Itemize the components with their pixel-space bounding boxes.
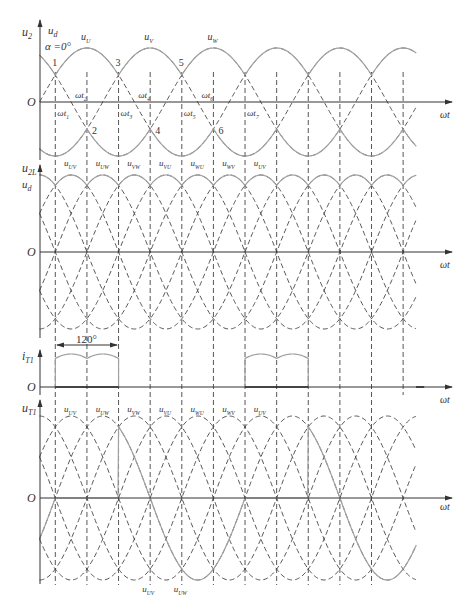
origin-label: O: [27, 245, 36, 259]
y-axis-label: u2: [22, 25, 32, 41]
segment-label-VW: uVW: [127, 404, 141, 416]
phase-label-V: uV: [144, 31, 154, 44]
y-axis-label: iT1: [22, 349, 34, 365]
bottom-label-UV: uUV: [142, 584, 155, 596]
segment-label-WV: uWV: [222, 404, 235, 416]
conduction-angle-label: 120°: [76, 333, 97, 345]
thyristor-voltage-panel: uT1 O ωt uUVuUWuVWuVUuWUuWVuUVuUVuUW: [22, 400, 452, 596]
point-label-2: 2: [92, 125, 97, 136]
firing-angle-label: α =0°: [45, 40, 71, 52]
x-axis-label: ωt: [440, 109, 450, 120]
point-label-4: 4: [155, 125, 160, 136]
origin-label: O: [27, 491, 36, 505]
time-label-2: ωt2: [75, 90, 87, 102]
y-axis-label: u2L: [22, 161, 37, 177]
bottom-label-UW: uUW: [174, 584, 189, 596]
segment-label-VU: uVU: [159, 404, 172, 416]
output-voltage-ud: [40, 175, 417, 185]
segment-label-WU: uWU: [191, 404, 205, 416]
rectifier-waveform-diagram: u2 ud α =0° O ωt uUuVuW 123456 ωt1ωt2ωt3…: [0, 0, 472, 605]
segment-label-WV: uWV: [222, 158, 235, 170]
segment-label-VU: uVU: [159, 158, 172, 170]
phase-label-U: uU: [81, 31, 91, 44]
segment-label-UW: uUW: [96, 404, 111, 416]
segment-label-UV: uUV: [254, 404, 267, 416]
x-axis-label: ωt: [440, 501, 450, 512]
time-label-7: ωt7: [247, 108, 259, 120]
point-label-5: 5: [179, 57, 184, 68]
x-axis-label: ωt: [440, 259, 450, 270]
segment-label-UV: uUV: [254, 158, 267, 170]
point-label-3: 3: [116, 57, 121, 68]
point-label-6: 6: [218, 125, 223, 136]
origin-label: O: [27, 380, 36, 394]
time-label-4: ωt4: [138, 90, 150, 102]
y-axis-label: uT1: [22, 401, 36, 417]
thyristor-voltage: [40, 427, 417, 580]
segment-label-UW: uUW: [96, 158, 111, 170]
origin-label: O: [27, 95, 36, 109]
ud-label: ud: [22, 178, 33, 193]
point-label-1: 1: [52, 57, 57, 68]
time-label-6: ωt6: [201, 90, 213, 102]
phase-label-W: uW: [207, 31, 218, 44]
segment-label-UV: uUV: [64, 404, 77, 416]
segment-label-WU: uWU: [191, 158, 205, 170]
time-label-1: ωt1: [57, 108, 69, 120]
time-label-3: ωt3: [121, 108, 133, 120]
ud-label: ud: [48, 24, 59, 39]
segment-label-UV: uUV: [64, 158, 77, 170]
upper-envelope: [40, 48, 417, 75]
time-label-5: ωt5: [184, 108, 196, 120]
x-axis-label: ωt: [440, 394, 450, 405]
segment-label-VW: uVW: [127, 158, 141, 170]
